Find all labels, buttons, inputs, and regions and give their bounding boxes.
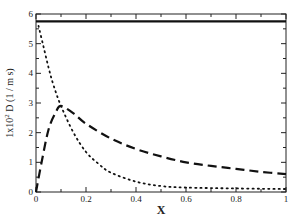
y-axis-label: 1x102 D (1 / m s) <box>3 68 16 137</box>
axis-tick-labels: 00.20.40.60.810123456 <box>29 9 289 204</box>
y-tick-label: 4 <box>29 68 34 78</box>
x-axis-label: X <box>157 203 166 217</box>
y-tick-label: 1 <box>29 157 34 167</box>
y-tick-label: 0 <box>29 187 34 197</box>
x-tick-label: 1 <box>284 194 289 204</box>
y-tick-label: 5 <box>29 39 34 49</box>
x-tick-label: 0.8 <box>230 194 242 204</box>
x-tick-label: 0.4 <box>130 194 142 204</box>
x-tick-label: 0.6 <box>180 194 192 204</box>
series-dotted-line <box>39 26 287 189</box>
x-tick-label: 0 <box>34 194 39 204</box>
series-dashed-line <box>36 106 286 192</box>
x-tick-label: 0.2 <box>80 194 91 204</box>
y-tick-label: 2 <box>29 128 34 138</box>
chart: 00.20.40.60.810123456 X 1x102 D (1 / m s… <box>0 0 300 218</box>
axis-ticks <box>36 14 286 192</box>
plot-frame <box>36 14 286 192</box>
series-group <box>36 21 286 192</box>
y-tick-label: 6 <box>29 9 34 19</box>
y-tick-label: 3 <box>29 98 34 108</box>
